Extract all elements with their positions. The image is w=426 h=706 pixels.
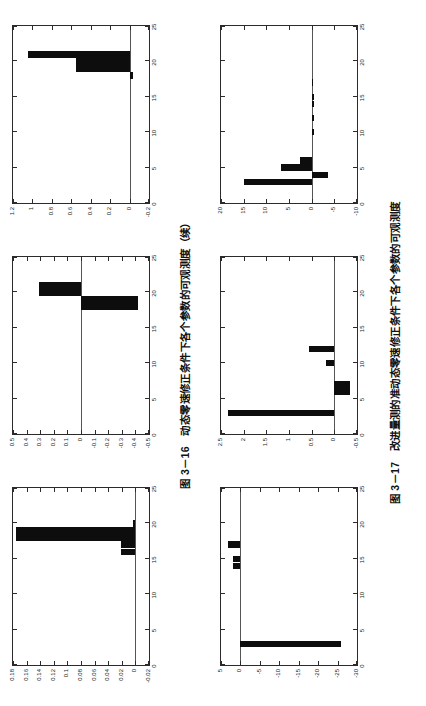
y-axis-tick-label: 0: [307, 207, 314, 210]
bar: [81, 296, 138, 302]
y-axis-tick: [135, 257, 136, 261]
y-axis-tick: [148, 488, 149, 492]
x-axis-tick: [221, 167, 225, 168]
bar: [76, 65, 129, 71]
bar: [312, 94, 314, 100]
y-axis-tick: [135, 661, 136, 665]
y-axis-tick-label: 0.12: [49, 669, 56, 681]
x-axis-tick-label: 25: [359, 486, 366, 493]
y-axis-tick: [67, 488, 68, 492]
y-axis-tick-label: 0: [77, 438, 84, 441]
y-axis-tick: [221, 26, 222, 30]
x-axis-tick-label: 0: [151, 202, 158, 205]
bar: [281, 164, 312, 170]
x-axis-tick-label: 0: [151, 664, 158, 667]
y-axis-tick: [338, 488, 339, 492]
chart-b: 奇异值=26.193 5 0510152025-0.5-0.4-0.3-0.2-…: [6, 244, 170, 475]
y-axis-tick: [67, 430, 68, 434]
x-axis-tick-label: 15: [359, 325, 366, 332]
x-axis-tick: [13, 362, 17, 363]
y-axis-tick: [356, 430, 357, 434]
bar: [334, 388, 350, 394]
y-axis-tick: [334, 430, 335, 434]
y-axis-tick: [108, 430, 109, 434]
y-axis-tick-label: -15: [294, 669, 301, 678]
x-axis-tick: [13, 558, 17, 559]
y-axis-tick: [13, 488, 14, 492]
y-axis-tick: [289, 257, 290, 261]
x-axis-tick-label: 5: [151, 167, 158, 170]
x-axis-tick: [353, 291, 357, 292]
y-axis-tick: [266, 26, 267, 30]
y-axis-tick: [54, 257, 55, 261]
y-axis-tick: [13, 430, 14, 434]
x-axis-tick: [13, 398, 17, 399]
x-axis-tick: [145, 362, 149, 363]
y-axis-tick: [266, 199, 267, 203]
x-axis-tick: [221, 593, 225, 594]
y-axis-tick: [130, 199, 131, 203]
y-axis-tick: [221, 661, 222, 665]
x-axis-tick: [221, 60, 225, 61]
y-axis-tick-label: 0: [330, 438, 337, 441]
y-axis-tick: [334, 26, 335, 30]
x-axis-tick-label: 0: [359, 433, 366, 436]
y-axis-tick: [312, 199, 313, 203]
bar: [228, 410, 335, 416]
y-axis-tick: [122, 661, 123, 665]
bar: [300, 157, 312, 163]
x-axis-tick: [13, 522, 17, 523]
x-axis-tick: [221, 96, 225, 97]
y-axis-tick: [91, 199, 92, 203]
y-axis-tick: [40, 257, 41, 261]
x-axis-tick: [353, 362, 357, 363]
y-axis-tick: [289, 199, 290, 203]
bar: [76, 58, 129, 64]
y-axis-tick: [356, 199, 357, 203]
x-axis-tick-label: 10: [359, 130, 366, 137]
figure-3-17: 奇异值=8.009 0510152025-30-25-20-15-10-505 …: [214, 0, 418, 706]
y-axis-tick: [299, 661, 300, 665]
x-axis-tick: [353, 593, 357, 594]
y-axis-tick: [52, 26, 53, 30]
y-axis-tick: [110, 199, 111, 203]
bar: [39, 282, 81, 288]
y-axis-tick: [148, 257, 149, 261]
chart-f: 奇异值=41.422 8 0510152025-10-505101520: [214, 13, 378, 244]
chart-c: 奇异值=20.547 1 0510152025-0.200.20.40.60.8…: [6, 13, 170, 244]
x-axis-tick-label: 15: [359, 94, 366, 101]
y-axis-tick-label: 1.2: [9, 207, 16, 215]
y-axis-tick-label: -0.3: [117, 438, 124, 448]
x-axis-tick-label: 25: [151, 24, 158, 31]
y-axis-tick: [95, 488, 96, 492]
y-axis-tick: [122, 430, 123, 434]
y-axis-tick-label: 5: [217, 669, 224, 672]
x-axis-tick: [145, 60, 149, 61]
figure-3-16-charts: 奇异值=28.246 1 0510152025-0.0200.020.040.0…: [6, 0, 174, 706]
x-axis-tick-label: 10: [151, 361, 158, 368]
x-axis-tick: [13, 96, 17, 97]
y-axis-tick: [54, 430, 55, 434]
x-axis-tick: [145, 131, 149, 132]
bar: [28, 51, 130, 57]
rotated-page-wrapper: 奇异值=28.246 1 0510152025-0.0200.020.040.0…: [0, 0, 426, 706]
y-axis-tick: [260, 488, 261, 492]
y-axis-tick: [279, 661, 280, 665]
x-axis-tick: [13, 131, 17, 132]
y-axis-tick-label: -0.2: [104, 438, 111, 448]
y-axis-tick: [67, 257, 68, 261]
zero-baseline: [135, 488, 136, 665]
x-axis-tick: [221, 629, 225, 630]
y-axis-tick-label: 0: [236, 669, 243, 672]
x-axis-tick-label: 0: [359, 664, 366, 667]
y-axis-tick-label: 0.18: [9, 669, 16, 681]
x-axis-tick: [13, 60, 17, 61]
x-axis-tick: [145, 593, 149, 594]
x-axis-tick-label: 15: [151, 556, 158, 563]
y-axis-tick: [13, 199, 14, 203]
x-axis-tick: [221, 522, 225, 523]
y-axis-tick: [334, 257, 335, 261]
y-axis-tick-label: 0.4: [22, 438, 29, 446]
chart-a-plot-area: 0510152025-0.0200.020.040.060.080.10.120…: [12, 487, 150, 666]
x-axis-tick-label: 10: [151, 592, 158, 599]
